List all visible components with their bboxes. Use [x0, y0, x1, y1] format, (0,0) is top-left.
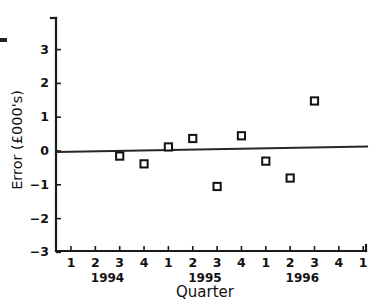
x-tick-label: 3: [310, 255, 319, 270]
x-tick-label: 2: [91, 255, 100, 270]
x-axis-tick-labels: 1234123412341: [67, 255, 368, 270]
trend-line: [56, 147, 368, 152]
data-point-marker: [140, 160, 147, 167]
y-axis-title: Error (£000's): [9, 90, 25, 190]
data-point-marker: [262, 158, 269, 165]
page-edge-artifact: [0, 38, 7, 42]
x-tick-label: 1: [359, 255, 368, 270]
x-tick-label: 4: [140, 255, 149, 270]
x-tick-label: 2: [286, 255, 295, 270]
y-tick-label: −3: [30, 244, 49, 259]
x-year-label: 1994: [91, 271, 124, 285]
data-point-marker: [238, 132, 245, 139]
x-tick-label: 4: [334, 255, 343, 270]
y-tick-label: −2: [30, 211, 49, 226]
x-tick-label: 2: [188, 255, 197, 270]
y-tick-label: −1: [30, 177, 49, 192]
x-tick-label: 1: [164, 255, 173, 270]
data-point-marker: [116, 152, 123, 159]
x-axis-title: Quarter: [176, 283, 235, 301]
plot-axes: [51, 18, 366, 251]
x-tick-label: 1: [261, 255, 270, 270]
x-tick-label: 3: [115, 255, 124, 270]
y-axis-tick-labels: 3210−1−2−3: [30, 42, 49, 260]
data-point-marker: [165, 143, 172, 150]
data-point-marker: [189, 135, 196, 142]
trend-line-group: [56, 147, 368, 152]
y-tick-label: 0: [40, 143, 49, 158]
y-tick-label: 1: [40, 109, 49, 124]
y-tick-label: 2: [40, 75, 49, 90]
data-point-marker: [311, 97, 318, 104]
data-point-marker: [214, 183, 221, 190]
x-tick-label: 1: [67, 255, 76, 270]
scatter-plot-canvas: 3210−1−2−3 1234123412341 199419951996 Qu…: [0, 0, 381, 307]
x-tick-label: 3: [213, 255, 222, 270]
data-point-marker: [287, 174, 294, 181]
y-tick-label: 3: [40, 42, 49, 57]
x-year-label: 1996: [286, 271, 319, 285]
data-point-markers: [116, 97, 318, 190]
chart-figure: 3210−1−2−3 1234123412341 199419951996 Qu…: [0, 0, 381, 307]
x-tick-label: 4: [237, 255, 246, 270]
